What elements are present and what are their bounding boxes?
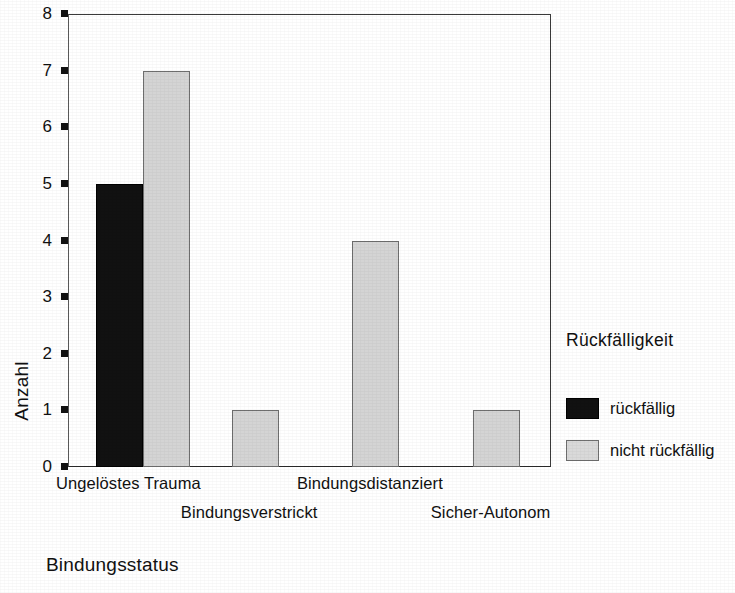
legend-item-label: rückfällig (610, 396, 675, 420)
x-axis-tick-label: Sicher-Autonom (341, 503, 641, 522)
y-axis-title: Anzahl (11, 341, 33, 441)
legend-swatch-icon (566, 440, 599, 461)
y-axis-tick-mark-icon (61, 10, 68, 17)
y-axis-tick-label: 3 (43, 289, 61, 305)
bar[interactable] (352, 241, 399, 468)
y-axis-tick-label: 1 (43, 402, 61, 418)
y-axis-tick-mark-icon (61, 67, 68, 74)
bar[interactable] (473, 410, 520, 467)
y-axis-tick-label: 5 (43, 176, 61, 192)
legend: Rückfälligkeit rückfällig nicht rückfäll… (562, 330, 735, 351)
bar[interactable] (96, 184, 143, 467)
y-axis-tick-label: 8 (43, 6, 61, 22)
y-axis-tick-7: 7 (43, 63, 68, 79)
y-axis-tick-3: 3 (43, 289, 68, 305)
y-axis-tick-8: 8 (43, 6, 68, 22)
y-axis-tick-label: 2 (43, 346, 61, 362)
legend-swatch-icon (566, 398, 599, 419)
y-axis-tick-label: 7 (43, 63, 61, 79)
y-axis-tick-mark-icon (61, 350, 68, 357)
y-axis-tick-mark-icon (61, 180, 68, 187)
y-axis-tick-mark-icon (61, 406, 68, 413)
bar[interactable] (232, 410, 279, 467)
y-axis-tick-mark-icon (61, 463, 68, 470)
y-axis-tick-mark-icon (61, 293, 68, 300)
plot-area (68, 14, 551, 467)
chart-canvas: 012345678 Anzahl Ungelöstes TraumaBindun… (0, 0, 735, 593)
legend-item-label: nicht rückfällig (610, 438, 715, 462)
y-axis-tick-1: 1 (43, 402, 68, 418)
bar[interactable] (143, 71, 190, 467)
y-axis-tick-mark-icon (61, 237, 68, 244)
y-axis-tick-mark-icon (61, 123, 68, 130)
y-axis-tick-5: 5 (43, 176, 68, 192)
y-axis-tick-label: 0 (43, 459, 61, 475)
x-axis-title: Bindungsstatus (46, 554, 179, 576)
y-axis-tick-label: 4 (43, 233, 61, 249)
y-axis-tick-label: 6 (43, 119, 61, 135)
legend-title: Rückfälligkeit (566, 330, 735, 351)
y-axis-tick-2: 2 (43, 346, 68, 362)
y-axis-tick-0: 0 (43, 459, 68, 475)
y-axis-tick-6: 6 (43, 119, 68, 135)
x-axis-tick-label: Bindungsdistanziert (220, 474, 520, 493)
y-axis-tick-4: 4 (43, 233, 68, 249)
